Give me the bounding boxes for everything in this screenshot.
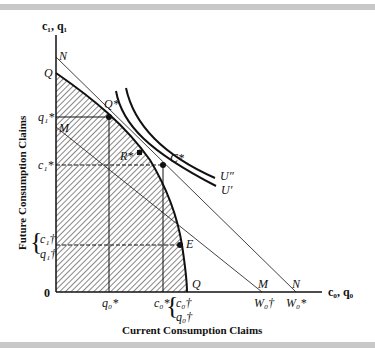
y-axis-variable-label: c₁, q₁	[42, 20, 67, 32]
label-q0-star: q₀*	[102, 297, 118, 309]
label-c1-star: c₁*	[38, 159, 54, 171]
label-M-yaxis: M	[59, 122, 69, 134]
brace-x: {	[166, 293, 178, 319]
label-W0-star: W₀*	[286, 297, 306, 309]
label-Q-xaxis: Q	[192, 278, 201, 290]
point-R-star	[137, 150, 142, 155]
label-C-star: C*	[170, 152, 184, 164]
origin-label: 0	[44, 287, 50, 299]
label-W0-dagger: W₀†	[254, 297, 274, 309]
point-E	[177, 242, 183, 248]
label-U-prime: U′	[221, 184, 232, 196]
y-axis-title: Future Consumption Claims	[16, 116, 28, 250]
x-axis-variable-label: c₀, q₀	[328, 286, 353, 298]
point-Q-star	[106, 114, 112, 120]
point-C-star	[160, 162, 166, 168]
label-c1-dagger: c₁†	[40, 233, 56, 245]
label-q1-dagger: q₁†	[40, 248, 56, 260]
label-M-xaxis: M	[258, 278, 268, 290]
label-N-yaxis: N	[59, 50, 67, 62]
label-U-double-prime: U″	[220, 170, 234, 182]
label-q1-star: q₁*	[38, 111, 54, 123]
label-Q-yaxis: Q	[44, 67, 53, 79]
label-E: E	[186, 238, 193, 250]
label-R-star: R*	[120, 150, 133, 162]
x-axis-title: Current Consumption Claims	[122, 324, 262, 336]
feasible-region	[56, 73, 187, 292]
label-Q-star: Q*	[104, 98, 119, 110]
label-N-xaxis: N	[292, 278, 300, 290]
